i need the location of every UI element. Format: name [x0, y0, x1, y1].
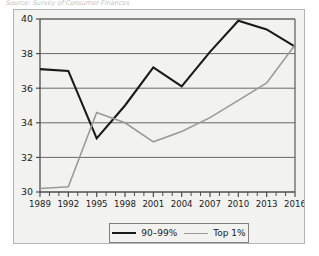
y-tick-label: 36 [21, 83, 33, 94]
x-tick-label: 2016 [284, 199, 304, 209]
chart-outer-frame: 303234363840 198919921995199820012004200… [13, 9, 305, 244]
y-tick-label: 32 [21, 152, 33, 163]
y-axis-label-group: 303234363840 [21, 13, 33, 197]
legend-entry-90-99[interactable]: 90–99% [112, 229, 177, 238]
y-tick-label: 34 [21, 117, 33, 128]
x-tick-label: 2001 [142, 199, 164, 209]
legend-label-90-99: 90–99% [141, 229, 177, 238]
legend-swatch-90-99 [112, 232, 136, 234]
x-axis [40, 19, 295, 192]
y-tick-label: 40 [21, 13, 33, 24]
legend-label-top-1: Top 1% [213, 229, 245, 238]
x-tick-label: 2010 [227, 199, 249, 209]
x-tick-label: 1995 [86, 199, 108, 209]
series-line [40, 21, 295, 139]
series-line [40, 45, 295, 189]
line-chart-plot: 303234363840 198919921995199820012004200… [14, 10, 304, 243]
y-tick-label: 38 [21, 48, 33, 59]
x-tick-label: 2013 [256, 199, 278, 209]
legend-entry-top-1[interactable]: Top 1% [184, 229, 245, 238]
chart-legend: 90–99% Top 1% [109, 223, 249, 243]
data-series-group [40, 21, 295, 189]
figure-source-caption: Source: Survey of Consumer Finances [6, 0, 306, 8]
x-axis-tick-group [40, 192, 295, 197]
legend-swatch-top-1 [184, 233, 208, 234]
x-tick-label: 1989 [29, 199, 51, 209]
x-tick-label: 2007 [199, 199, 221, 209]
chart-figure: Source: Survey of Consumer Finances 3032… [0, 0, 319, 256]
y-tick-label: 30 [21, 186, 33, 197]
x-tick-label: 1998 [114, 199, 136, 209]
x-axis-label-group: 1989199219951998200120042007201020132016 [29, 199, 304, 209]
x-tick-label: 2004 [171, 199, 193, 209]
x-tick-label: 1992 [57, 199, 79, 209]
